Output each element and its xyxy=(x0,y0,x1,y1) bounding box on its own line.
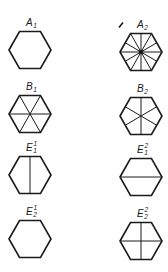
hexagon-panel-e2-2: E22 xyxy=(120,206,162,260)
hexagon-outline xyxy=(9,32,51,69)
panel-label-superscript: 1 xyxy=(34,140,38,147)
panel-label: A1 xyxy=(25,17,37,29)
symmetry-line xyxy=(125,107,141,116)
hexagon-panel-e2-1: E21 xyxy=(9,204,51,258)
panel-label-superscript: 2 xyxy=(144,206,149,213)
hexagon-panel-b2: B2 xyxy=(120,83,162,135)
arrow-mark-icon xyxy=(119,23,123,28)
hexagon-panel-a1: A1 xyxy=(9,17,51,69)
panel-label: B2 xyxy=(137,83,148,95)
hexagon-panel-e1-2: E12 xyxy=(120,142,162,196)
hexagon-panel-e1-1: E11 xyxy=(9,140,51,194)
panel-label-superscript: 1 xyxy=(34,204,38,211)
symmetry-diagram: A1A2B1B2E11E12E21E22 xyxy=(0,0,168,272)
hexagon-panel-a2: A2 xyxy=(119,19,162,71)
panel-label: A2 xyxy=(136,19,148,31)
symmetry-line xyxy=(141,116,157,125)
symmetry-line xyxy=(125,116,141,125)
panel-label-superscript: 2 xyxy=(144,142,149,149)
hexagon-outline xyxy=(9,221,51,258)
hexagon-panel-b1: B1 xyxy=(9,81,51,133)
symmetry-line xyxy=(141,107,157,116)
center-dot xyxy=(139,50,143,54)
panel-label: B1 xyxy=(26,81,37,93)
